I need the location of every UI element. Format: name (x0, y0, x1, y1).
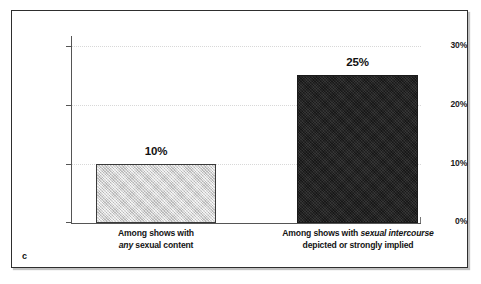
y-axis-line (71, 36, 72, 223)
bar-value-label-2: 25% (297, 56, 418, 68)
x-category-label-2-emphasis: sexual intercourse (360, 228, 433, 238)
bar-value-label-1: 10% (96, 145, 216, 157)
x-category-label-1: Among shows with any sexual content (76, 228, 236, 251)
y-tick-0 (66, 222, 72, 223)
x-category-label-1-line2: any sexual content (76, 240, 236, 252)
x-category-label-1-emphasis: any (119, 240, 133, 250)
x-category-label-1-line1: Among shows with (76, 228, 236, 240)
x-category-label-2-line1: Among shows with sexual intercourse (252, 228, 464, 240)
y-tick-20 (66, 105, 72, 106)
y-tick-label-20: 20% (421, 99, 467, 109)
chart-plot-area: 30% 20% 10% 0% 10% 25% Among shows with … (12, 11, 467, 267)
x-category-label-1-line2-rest: sexual content (133, 240, 193, 250)
x-category-label-2: Among shows with sexual intercourse depi… (252, 228, 464, 251)
x-category-label-2-line1-lead: Among shows with (282, 228, 360, 238)
y-tick-label-30: 30% (421, 40, 467, 50)
x-category-label-2-line2: depicted or strongly implied (252, 240, 464, 252)
y-tick-10 (66, 164, 72, 165)
bar-any-sexual-content[interactable] (96, 164, 216, 223)
bar-sexual-intercourse[interactable] (297, 75, 418, 223)
gridline-30 (72, 46, 421, 48)
figure-panel: 30% 20% 10% 0% 10% 25% Among shows with … (11, 10, 468, 268)
y-tick-label-0: 0% (421, 216, 467, 226)
y-tick-30 (66, 46, 72, 47)
panel-letter: c (22, 251, 27, 261)
y-tick-label-10: 10% (421, 158, 467, 168)
